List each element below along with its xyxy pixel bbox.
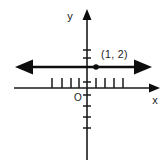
x-axis-arrowhead-icon	[149, 84, 160, 93]
coordinate-plane-figure: y x O	[0, 0, 167, 164]
point-label-1-2: (1, 2)	[101, 48, 128, 60]
y-axis-arrowhead-icon	[83, 9, 92, 20]
graph-canvas: y x O	[0, 0, 167, 164]
origin-label: O	[74, 92, 82, 103]
point-marker-1-2	[93, 64, 99, 70]
plotted-line-group	[15, 60, 152, 75]
x-axis-label: x	[152, 94, 158, 106]
line-right-arrowhead-icon	[134, 60, 152, 75]
line-left-arrowhead-icon	[15, 60, 33, 75]
y-axis-label: y	[67, 10, 73, 22]
